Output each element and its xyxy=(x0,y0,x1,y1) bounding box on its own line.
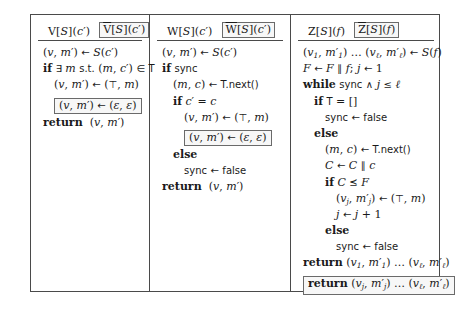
code-line: (v, m′) ← (⊤, m) xyxy=(162,110,290,126)
column-v: V[S](c′) V[S](c′) (v, m′) ← S(c′) if ∃ m… xyxy=(31,15,149,291)
code-line: return (v, m′) xyxy=(43,115,149,131)
code-line: else xyxy=(303,223,441,239)
code-line: if c′ = c xyxy=(162,94,290,110)
code-line: (v, m′) ← (⊤, m) xyxy=(43,77,149,93)
column-w-body: (v, m′) ← S(c′) if sync (m, c) ← T.next(… xyxy=(150,45,290,196)
column-v-header-boxed: V[S](c′) xyxy=(99,22,149,38)
code-line: (v1, m′1) … (vℓ, m′ℓ) ← S(f) xyxy=(303,45,441,61)
code-line: (vj, m′j) ← (⊤, m) xyxy=(303,191,441,207)
column-z-body: (v1, m′1) … (vℓ, m′ℓ) ← S(f) F ← F ∥ f; … xyxy=(291,45,441,295)
code-line: if C ⪯ F xyxy=(303,175,441,191)
code-line: (v, m′) ← S(c′) xyxy=(162,45,290,61)
algorithm-figure: V[S](c′) V[S](c′) (v, m′) ← S(c′) if ∃ m… xyxy=(30,14,440,292)
code-line: else xyxy=(303,126,441,142)
code-line-boxed-wrap: (v, m′) ← (ε, ε) xyxy=(162,126,290,147)
code-line-boxed-wrap: return (vj, m′j) … (vℓ, m′ℓ) xyxy=(303,272,441,296)
code-line: sync ← false xyxy=(162,163,290,179)
column-w-header-plain: W[S](c′) xyxy=(167,25,213,38)
code-line: while sync ∧ j ≤ ℓ xyxy=(303,77,441,93)
code-line: sync ← false xyxy=(303,239,441,255)
column-z-header-boxed: Z[S](f) xyxy=(354,22,399,38)
code-line: return (v1, m′1) … (vℓ, m′ℓ) xyxy=(303,255,441,271)
column-w-header: W[S](c′) W[S](c′) xyxy=(157,21,283,41)
column-z-header: Z[S](f) Z[S](f) xyxy=(298,21,434,41)
column-v-header-plain: V[S](c′) xyxy=(48,25,90,38)
code-line-boxed-wrap: (v, m′) ← (ε, ε) xyxy=(43,94,149,115)
code-line: C ← C ∥ c xyxy=(303,158,441,174)
code-line-boxed: return (vj, m′j) … (vℓ, m′ℓ) xyxy=(303,276,455,295)
column-z: Z[S](f) Z[S](f) (v1, m′1) … (vℓ, m′ℓ) ← … xyxy=(291,15,441,291)
code-line: (m, c) ← T.next() xyxy=(162,77,290,93)
code-line: F ← F ∥ f; j ← 1 xyxy=(303,61,441,77)
code-line: return (v, m′) xyxy=(162,179,290,195)
code-line: else xyxy=(162,147,290,163)
code-line: (m, c) ← T.next() xyxy=(303,142,441,158)
column-v-header: V[S](c′) V[S](c′) xyxy=(38,21,142,41)
code-line-boxed: (v, m′) ← (ε, ε) xyxy=(54,98,142,115)
column-z-header-plain: Z[S](f) xyxy=(308,25,345,38)
code-line: sync ← false xyxy=(303,110,441,126)
column-v-body: (v, m′) ← S(c′) if ∃ m s.t. (m, c′) ∈ T … xyxy=(31,45,149,131)
code-line: if ∃ m s.t. (m, c′) ∈ T xyxy=(43,61,149,77)
column-w-header-boxed: W[S](c′) xyxy=(222,22,276,38)
column-w: W[S](c′) W[S](c′) (v, m′) ← S(c′) if syn… xyxy=(150,15,290,291)
code-line: (v, m′) ← S(c′) xyxy=(43,45,149,61)
code-line-boxed: (v, m′) ← (ε, ε) xyxy=(184,130,272,147)
code-line: if T = [] xyxy=(303,94,441,110)
code-line: j ← j + 1 xyxy=(303,207,441,223)
code-line: if sync xyxy=(162,61,290,77)
